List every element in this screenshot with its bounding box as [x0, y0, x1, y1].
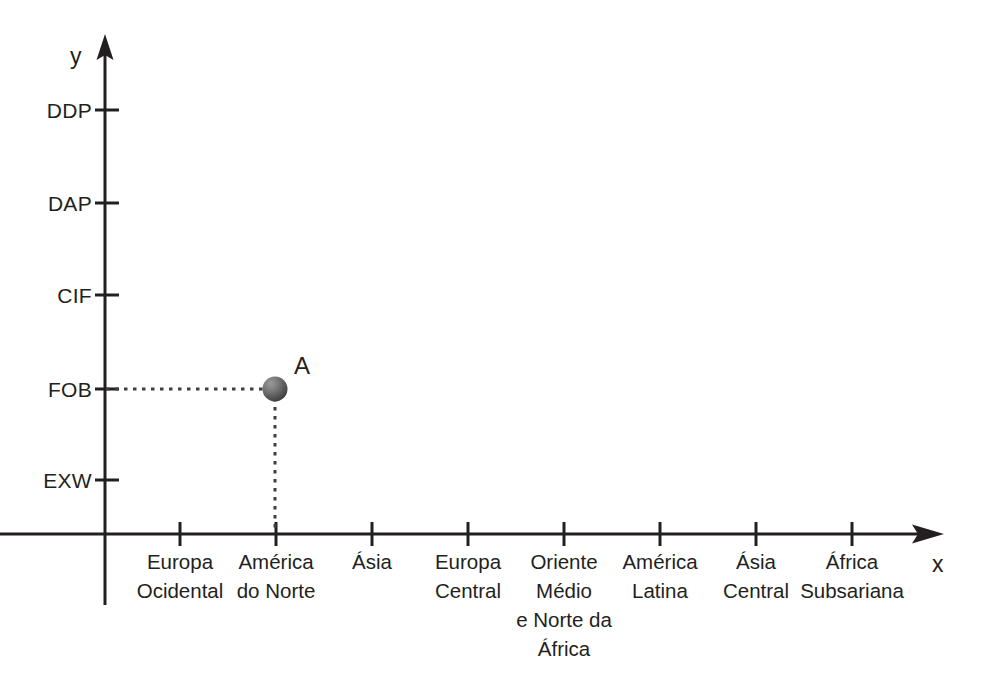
- x-axis-label: x: [932, 553, 944, 576]
- data-point-label-a: A: [294, 354, 310, 378]
- x-tick-label-africa-subsariana: África Subsariana: [777, 547, 927, 605]
- y-tick-label-exw: EXW: [43, 470, 92, 491]
- y-axis-label: y: [70, 45, 82, 68]
- y-tick-label-cif: CIF: [57, 285, 92, 306]
- y-tick-label-ddp: DDP: [47, 100, 92, 121]
- y-axis-ticks: [95, 110, 119, 480]
- chart-canvas: y x DDP DAP CIF FOB EXW Europa Ocidental…: [0, 0, 988, 687]
- y-tick-label-dap: DAP: [48, 193, 92, 214]
- y-tick-label-fob: FOB: [48, 379, 92, 400]
- data-point-a[interactable]: [263, 377, 288, 402]
